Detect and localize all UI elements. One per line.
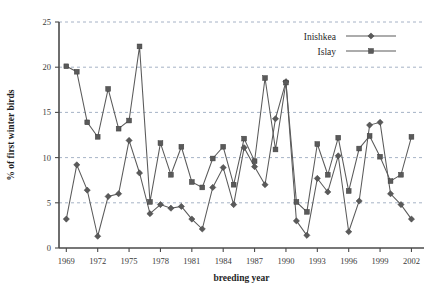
legend: InishkeaIslay bbox=[304, 32, 396, 57]
y-tick-label-20: 20 bbox=[43, 62, 52, 72]
data-point-inishkea-1976 bbox=[136, 170, 142, 176]
data-point-islay-1990 bbox=[284, 80, 289, 85]
data-point-islay-1988 bbox=[263, 76, 268, 81]
data-point-islay-1998 bbox=[367, 134, 372, 139]
data-point-islay-1979 bbox=[169, 172, 174, 177]
data-point-inishkea-1972 bbox=[95, 233, 101, 239]
data-point-islay-1985 bbox=[231, 182, 236, 187]
data-point-islay-2001 bbox=[399, 172, 404, 177]
x-tick-label-1975: 1975 bbox=[121, 256, 138, 266]
chart-container: 0510152025196919721975197819811984198719… bbox=[0, 0, 435, 293]
data-point-islay-1974 bbox=[116, 126, 121, 131]
series-inishkea bbox=[63, 79, 414, 240]
data-point-islay-1984 bbox=[221, 144, 226, 149]
series-line-inishkea bbox=[66, 82, 411, 237]
data-point-inishkea-1989 bbox=[272, 116, 278, 122]
data-point-islay-1972 bbox=[95, 134, 100, 139]
data-point-islay-1989 bbox=[273, 147, 278, 152]
legend-marker-islay bbox=[369, 49, 374, 54]
x-axis-title: breeding year bbox=[213, 273, 270, 283]
x-tick-label-1996: 1996 bbox=[340, 256, 357, 266]
legend-marker-inishkea bbox=[368, 33, 374, 39]
data-point-inishkea-1969 bbox=[63, 216, 69, 222]
x-tick-label-1984: 1984 bbox=[215, 256, 233, 266]
data-point-islay-1994 bbox=[325, 172, 330, 177]
data-point-islay-1970 bbox=[74, 69, 79, 74]
data-point-inishkea-1987 bbox=[251, 164, 257, 170]
data-point-islay-1973 bbox=[106, 86, 111, 91]
data-point-islay-1983 bbox=[210, 156, 215, 161]
x-tick-label-1972: 1972 bbox=[89, 256, 106, 266]
data-point-inishkea-1988 bbox=[262, 182, 268, 188]
x-tick-label-1990: 1990 bbox=[277, 256, 294, 266]
data-point-inishkea-1983 bbox=[210, 184, 216, 190]
data-point-inishkea-1998 bbox=[367, 122, 373, 128]
data-point-islay-1993 bbox=[315, 142, 320, 147]
data-point-islay-1969 bbox=[64, 64, 69, 69]
data-point-inishkea-1974 bbox=[116, 191, 122, 197]
data-point-inishkea-1996 bbox=[346, 229, 352, 235]
data-point-islay-1976 bbox=[137, 44, 142, 49]
x-tick-label-1978: 1978 bbox=[152, 256, 169, 266]
data-point-inishkea-1970 bbox=[74, 162, 80, 168]
data-point-islay-1980 bbox=[179, 144, 184, 149]
data-point-inishkea-1971 bbox=[84, 187, 90, 193]
data-point-islay-1991 bbox=[294, 199, 299, 204]
data-point-islay-1992 bbox=[304, 209, 309, 214]
y-tick-label-25: 25 bbox=[43, 17, 52, 27]
y-tick-label-5: 5 bbox=[47, 198, 51, 208]
x-tick-label-1981: 1981 bbox=[183, 256, 200, 266]
data-point-islay-1971 bbox=[85, 120, 90, 125]
data-point-islay-2000 bbox=[388, 179, 393, 184]
data-point-islay-1987 bbox=[252, 159, 257, 164]
legend-label-islay: Islay bbox=[318, 47, 337, 57]
data-point-inishkea-1975 bbox=[126, 137, 132, 143]
data-point-islay-1997 bbox=[357, 146, 362, 151]
data-point-islay-1978 bbox=[158, 141, 163, 146]
data-point-inishkea-1984 bbox=[220, 164, 226, 170]
line-chart: 0510152025196919721975197819811984198719… bbox=[0, 0, 435, 293]
legend-label-inishkea: Inishkea bbox=[304, 32, 337, 42]
data-point-inishkea-1973 bbox=[105, 193, 111, 199]
x-tick-label-2002: 2002 bbox=[403, 256, 420, 266]
y-tick-label-10: 10 bbox=[43, 153, 52, 163]
x-tick-label-1969: 1969 bbox=[58, 256, 75, 266]
y-axis-title: % of first winter birds bbox=[6, 89, 16, 180]
x-tick-label-1999: 1999 bbox=[372, 256, 389, 266]
y-tick-label-0: 0 bbox=[47, 243, 51, 253]
data-point-islay-1981 bbox=[189, 180, 194, 185]
data-point-islay-1982 bbox=[200, 185, 205, 190]
data-point-islay-1995 bbox=[336, 135, 341, 140]
x-tick-label-1993: 1993 bbox=[309, 256, 326, 266]
y-tick-label-15: 15 bbox=[43, 107, 52, 117]
data-point-islay-1999 bbox=[378, 154, 383, 159]
data-point-islay-1996 bbox=[346, 189, 351, 194]
data-point-inishkea-1999 bbox=[377, 119, 383, 125]
data-point-inishkea-1979 bbox=[168, 205, 174, 211]
data-point-islay-1975 bbox=[127, 118, 132, 123]
data-point-islay-2002 bbox=[409, 134, 414, 139]
data-point-islay-1977 bbox=[148, 199, 153, 204]
x-tick-label-1987: 1987 bbox=[246, 256, 263, 266]
data-point-islay-1986 bbox=[242, 136, 247, 141]
